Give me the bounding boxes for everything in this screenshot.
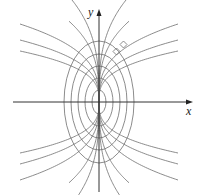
x-axis-label: x	[185, 104, 192, 118]
orthogonal-curve-5-q2	[69, 0, 99, 102]
orthogonal-curve-2-q2	[20, 40, 99, 102]
orthogonal-curve-2-q1	[99, 40, 178, 102]
orthogonal-trajectories-diagram: x y	[0, 0, 208, 195]
y-axis-label: y	[87, 5, 94, 19]
orthogonal-curve-5-q3	[99, 102, 129, 195]
orthogonal-curve-2-q4	[20, 102, 99, 164]
orthogonal-curve-5-q4	[69, 102, 99, 195]
orthogonal-curve-2-q3	[99, 102, 178, 164]
right-angle-marker-icon	[120, 41, 127, 48]
y-axis-arrow-icon	[97, 9, 102, 16]
